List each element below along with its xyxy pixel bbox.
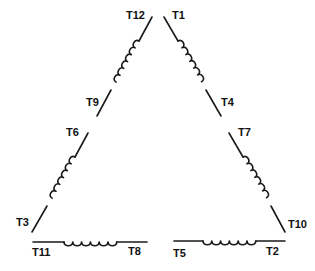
terminal-label-t8: T8 bbox=[128, 245, 141, 257]
terminal-label-t1: T1 bbox=[172, 9, 185, 21]
winding-left-lower bbox=[32, 133, 88, 232]
delta-winding-diagram: T12 T1 T9 T4 T6 T7 T3 T10 T11 T8 T5 T2 bbox=[0, 0, 315, 271]
winding-right-lower bbox=[229, 133, 285, 232]
terminal-label-t10: T10 bbox=[288, 218, 307, 230]
winding-right-upper bbox=[164, 17, 221, 116]
terminal-label-t2: T2 bbox=[266, 245, 279, 257]
terminal-label-t9: T9 bbox=[86, 96, 99, 108]
terminal-label-t5: T5 bbox=[173, 247, 186, 259]
terminal-label-t11: T11 bbox=[32, 246, 50, 258]
winding-left-upper bbox=[97, 17, 152, 116]
terminal-label-t7: T7 bbox=[238, 126, 251, 138]
terminal-label-t12: T12 bbox=[126, 9, 145, 21]
terminal-label-t4: T4 bbox=[221, 96, 235, 108]
terminal-label-t6: T6 bbox=[66, 126, 79, 138]
terminal-label-t3: T3 bbox=[16, 216, 29, 228]
